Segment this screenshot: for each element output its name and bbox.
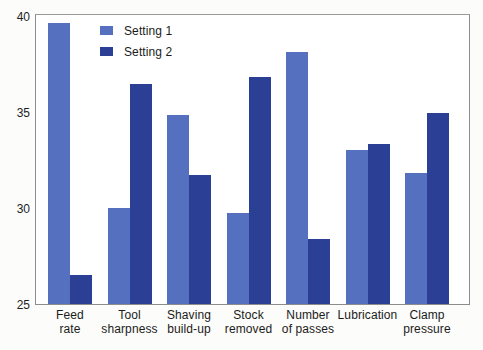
bar-setting-2-6	[427, 113, 449, 304]
y-tick-label-30: 30	[6, 203, 30, 215]
legend-swatch-icon-setting-1	[100, 26, 113, 35]
y-tick-label-35: 35	[6, 107, 30, 119]
legend-item-setting-1: Setting 1	[100, 22, 172, 39]
bar-chart: 40 35 30 25 FeedrateToolsharpnessShaving…	[0, 0, 483, 350]
bar-setting-1-6	[405, 173, 427, 304]
bar-setting-2-3	[249, 77, 271, 304]
legend: Setting 1 Setting 2	[100, 22, 172, 64]
legend-item-setting-2: Setting 2	[100, 43, 172, 60]
bar-setting-2-1	[130, 84, 152, 304]
bar-setting-1-4	[286, 52, 308, 304]
legend-swatch-icon-setting-2	[100, 47, 113, 56]
bar-setting-1-2	[167, 115, 189, 304]
bar-setting-1-0	[48, 23, 70, 304]
bar-setting-2-0	[70, 275, 92, 304]
bar-setting-1-1	[108, 208, 130, 304]
x-axis-label-6: Clamppressure	[379, 309, 475, 336]
legend-label-setting-1: Setting 1	[124, 24, 172, 38]
bar-setting-2-4	[308, 239, 330, 305]
y-tick-label-40: 40	[6, 11, 30, 23]
legend-label-setting-2: Setting 2	[124, 45, 172, 59]
bar-setting-1-5	[346, 150, 368, 304]
bar-setting-2-5	[368, 144, 390, 304]
bar-setting-2-2	[189, 175, 211, 304]
bar-setting-1-3	[227, 213, 249, 304]
